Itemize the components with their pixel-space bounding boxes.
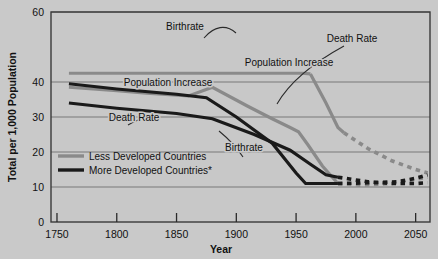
- x-axis-title: Year: [210, 243, 232, 255]
- y-axis-title: Total per 1,000 Population: [6, 52, 18, 182]
- demographic-transition-chart: 1750180018501900195020002050 01020304060…: [0, 0, 438, 259]
- annotation-4: Death Rate: [109, 112, 160, 123]
- y-tick-label-10: 10: [32, 181, 44, 193]
- y-tick-label-30: 30: [32, 111, 44, 123]
- y-tick-label-0: 0: [38, 216, 44, 228]
- annotation-3: Population Increase: [124, 77, 213, 88]
- annotation-2: Population Increase: [245, 57, 334, 68]
- y-tick-label-20: 20: [32, 146, 44, 158]
- x-tick-label-1750: 1750: [45, 228, 69, 240]
- x-tick-label-2050: 2050: [404, 228, 428, 240]
- x-tick-label-1900: 1900: [225, 228, 249, 240]
- x-tick-label-2000: 2000: [344, 228, 368, 240]
- x-tick-label-1850: 1850: [165, 228, 189, 240]
- y-tick-label-60: 60: [32, 6, 44, 18]
- annotation-5: Birthrate: [225, 142, 263, 153]
- annotation-0: Birthrate: [166, 21, 204, 32]
- chart-svg: 1750180018501900195020002050 01020304060…: [0, 0, 438, 259]
- x-tick-label-1950: 1950: [284, 228, 308, 240]
- x-tick-label-1800: 1800: [105, 228, 129, 240]
- y-tick-label-40: 40: [32, 76, 44, 88]
- annotation-1: Death Rate: [327, 33, 378, 44]
- series-line-0: [69, 73, 311, 74]
- legend-label-more-developed: More Developed Countries*: [89, 165, 212, 176]
- legend-label-less-developed: Less Developed Countries: [89, 151, 206, 162]
